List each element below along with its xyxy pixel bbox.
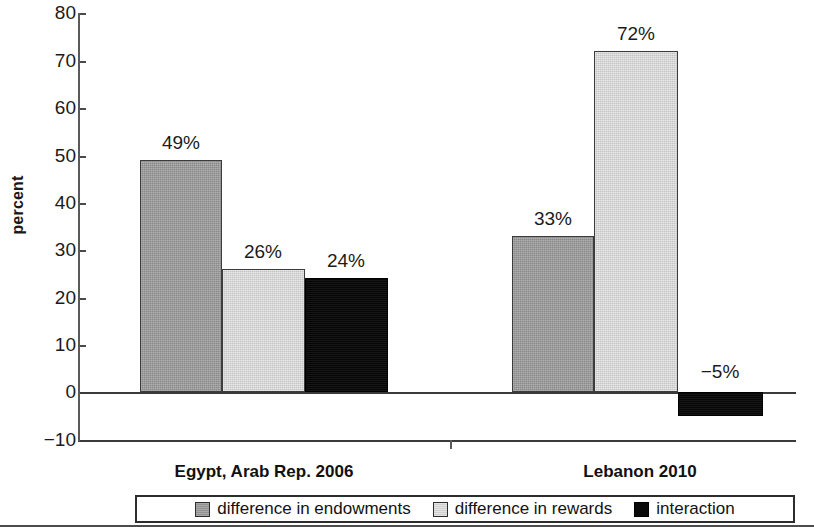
bar-egypt-rewards [222,269,305,392]
legend-swatch-interaction-icon [634,502,649,517]
bar-lebanon-interaction [678,392,763,416]
category-label-lebanon: Lebanon 2010 [500,462,780,482]
y-axis-title: percent [9,165,27,245]
bar-label-egypt-interaction: 24% [296,251,396,271]
bar-label-lebanon-endowments: 33% [503,209,603,229]
legend-label-endowments: difference in endowments [217,499,410,519]
y-tick-label-50: 50 [30,146,76,165]
bar-egypt-endowments [140,160,222,392]
group-separator-tick [450,440,452,449]
y-tick-label-10: 10 [30,335,76,354]
legend-swatch-rewards-icon [433,502,448,517]
y-tick-label-70: 70 [30,51,76,70]
bar-lebanon-rewards [594,51,678,392]
bar-label-lebanon-interaction: −5% [670,362,770,382]
legend-label-rewards: difference in rewards [455,499,613,519]
legend-item-endowments[interactable]: difference in endowments [195,499,410,519]
x-axis-line [80,440,796,442]
bar-label-egypt-endowments: 49% [131,133,231,153]
legend: difference in endowments difference in r… [135,495,795,523]
bar-egypt-interaction [305,278,388,392]
bar-label-lebanon-rewards: 72% [586,24,686,44]
legend-label-interaction: interaction [656,499,734,519]
y-tick-label-20: 20 [30,288,76,307]
y-tick-label-80: 80 [30,3,76,22]
y-tick-label-40: 40 [30,193,76,212]
plot-area: 49% 26% 24% 33% 72% −5% Egypt, Arab Rep.… [80,10,796,442]
legend-swatch-endowments-icon [195,502,210,517]
legend-item-interaction[interactable]: interaction [634,499,734,519]
bar-lebanon-endowments [512,236,594,392]
y-tick-label-0: 0 [30,382,76,401]
y-tick-label-30: 30 [30,240,76,259]
category-label-egypt: Egypt, Arab Rep. 2006 [124,462,404,482]
y-tick-label-60: 60 [30,98,76,117]
y-tick-label-neg10: −10 [30,430,76,449]
bar-chart: percent 80 70 60 50 40 30 20 10 0 −10 [0,0,814,527]
legend-item-rewards[interactable]: difference in rewards [433,499,613,519]
